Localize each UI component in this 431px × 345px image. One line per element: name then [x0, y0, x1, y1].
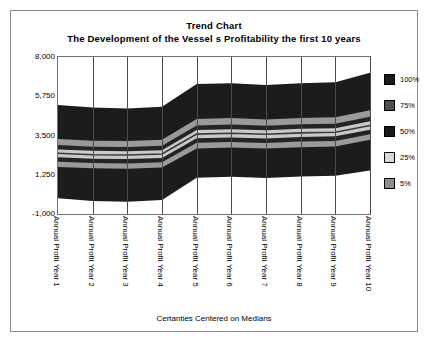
y-tick-label: 3,500 — [13, 132, 55, 140]
grid-line-vertical — [370, 57, 371, 214]
y-tick-label: 1,250 — [13, 171, 55, 179]
x-tick-label: Annual Profit Year 5 — [191, 216, 200, 311]
x-tick-label: Annual Profit Year 4 — [156, 216, 165, 311]
legend-item: 25% — [384, 144, 431, 170]
chart-frame: Trend Chart The Development of the Vesse… — [10, 10, 418, 332]
legend-swatch — [384, 100, 395, 111]
legend-label: 25% — [400, 153, 415, 162]
grid-line-vertical — [301, 57, 302, 214]
certainty-bands — [58, 57, 370, 214]
x-tick-label: Annual Profit Year 10 — [364, 216, 373, 311]
x-tick-label: Annual Profit Year 7 — [260, 216, 269, 311]
y-axis: 8,0005,7503,5001,250-1,000 — [11, 56, 55, 215]
grid-line-vertical — [93, 57, 94, 214]
x-tick-label: Annual Profit Year 2 — [87, 216, 96, 311]
x-tick-label: Annual Profit Year 9 — [329, 216, 338, 311]
x-axis: Annual Profit Year 1Annual Profit Year 2… — [57, 216, 371, 311]
title-block: Trend Chart The Development of the Vesse… — [11, 19, 417, 45]
grid-line-vertical — [335, 57, 336, 214]
legend-label: 100% — [400, 75, 419, 84]
x-tick-label: Annual Profit Year 1 — [52, 216, 61, 311]
chart-title: Trend Chart — [11, 19, 417, 32]
y-tick-label: -1,000 — [13, 210, 55, 218]
x-tick-label: Annual Profit Year 8 — [295, 216, 304, 311]
legend-swatch — [384, 152, 395, 163]
legend-swatch — [384, 74, 395, 85]
legend: 100%75%50%25%5% — [384, 66, 431, 196]
chart-subtitle: The Development of the Vessel s Profitab… — [11, 32, 417, 45]
x-tick-label: Annual Profit Year 3 — [121, 216, 130, 311]
grid-line-vertical — [127, 57, 128, 214]
legend-item: 5% — [384, 170, 431, 196]
x-axis-caption: Certanties Centered on Medians — [57, 314, 371, 323]
legend-item: 50% — [384, 118, 431, 144]
legend-label: 50% — [400, 127, 415, 136]
legend-item: 100% — [384, 66, 431, 92]
legend-label: 75% — [400, 101, 415, 110]
legend-swatch — [384, 178, 395, 189]
y-tick-label: 5,750 — [13, 92, 55, 100]
grid-line-vertical — [266, 57, 267, 214]
y-tick-label: 8,000 — [13, 53, 55, 61]
legend-swatch — [384, 126, 395, 137]
grid-line-vertical — [231, 57, 232, 214]
grid-line-vertical — [162, 57, 163, 214]
x-tick-label: Annual Profit Year 6 — [225, 216, 234, 311]
plot-area — [57, 56, 371, 215]
legend-item: 75% — [384, 92, 431, 118]
legend-label: 5% — [400, 179, 411, 188]
grid-line-vertical — [197, 57, 198, 214]
